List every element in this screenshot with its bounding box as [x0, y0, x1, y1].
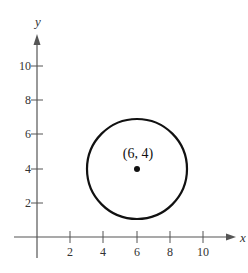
x-axis-arrow-icon [226, 234, 236, 241]
chart-canvas: 2 4 6 8 10 x 10 8 6 4 2 y (6, 4) [0, 0, 248, 273]
center-point [134, 166, 140, 172]
x-axis: 2 4 6 8 10 x [14, 230, 246, 259]
x-tick-label: 6 [134, 245, 140, 259]
y-tick-label: 6 [25, 127, 31, 141]
y-axis-arrow-icon [34, 34, 41, 45]
center-label: (6, 4) [123, 146, 154, 162]
x-tick-label: 8 [167, 245, 173, 259]
y-axis-label: y [33, 14, 41, 29]
y-axis: 10 8 6 4 2 y [19, 14, 43, 258]
y-tick-label: 2 [25, 196, 31, 210]
y-tick-label: 10 [19, 59, 31, 73]
x-tick-label: 4 [100, 245, 106, 259]
x-tick-label: 10 [197, 245, 209, 259]
x-axis-label: x [239, 230, 246, 245]
y-tick-label: 4 [25, 162, 31, 176]
y-tick-label: 8 [25, 93, 31, 107]
x-tick-label: 2 [67, 245, 73, 259]
